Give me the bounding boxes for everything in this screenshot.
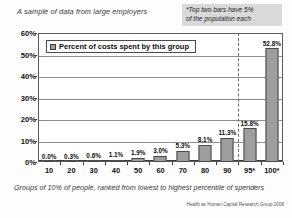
x-axis-tick-mark [83, 162, 84, 165]
bar-value-label: 5.3% [175, 142, 190, 149]
y-axis-tick-label: 20% [2, 115, 36, 124]
y-axis-tick-mark [34, 141, 37, 142]
x-axis-tick-label: 80 [201, 166, 209, 175]
x-axis-tick-mark [149, 162, 150, 165]
x-axis-tick-label: 90 [223, 166, 231, 175]
bar[interactable] [243, 128, 256, 162]
bar-group[interactable]: 52.8% [261, 33, 283, 162]
x-axis-tick-mark [261, 162, 262, 165]
legend-label: Percent of costs spent by this group [59, 42, 189, 51]
y-axis-tick-mark [34, 76, 37, 77]
bar[interactable] [199, 145, 212, 162]
x-axis-tick-label: 10 [45, 166, 53, 175]
bar-value-label: 0.3% [64, 153, 79, 160]
x-axis-tick-label: 50 [134, 166, 142, 175]
y-axis-tick-label: 0% [2, 158, 36, 167]
source-note: Health as Human Capital Research Group 2… [186, 202, 284, 207]
x-axis-tick-label: 40 [112, 166, 120, 175]
bar-group[interactable]: 8.1% [194, 33, 216, 162]
x-axis-tick-label: 30 [90, 166, 98, 175]
x-axis-tick-label: 100* [264, 166, 279, 175]
y-axis-tick-mark [34, 98, 37, 99]
x-axis-tick-mark [216, 162, 217, 165]
x-axis-tick-label: 60 [156, 166, 164, 175]
bar-value-label: 8.1% [198, 136, 213, 143]
x-axis-tick-mark [60, 162, 61, 165]
y-axis-tick-mark [34, 119, 37, 120]
bar-value-label: 0.0% [42, 153, 57, 160]
y-axis-tick-mark [34, 33, 37, 34]
x-axis-tick-mark [127, 162, 128, 165]
x-axis-tick-label: 95* [244, 166, 255, 175]
x-axis-caption: Groups of 10% of people, ranked from low… [14, 183, 264, 192]
bar-value-label: 15.8% [241, 120, 259, 127]
chart-legend: Percent of costs spent by this group [46, 40, 196, 53]
bar[interactable] [176, 151, 189, 162]
y-axis-tick-label: 60% [2, 29, 36, 38]
y-axis-tick-mark [34, 55, 37, 56]
bar-value-label: 3.0% [153, 147, 168, 154]
annotation-line-1: *Top two bars have 5% [186, 6, 279, 15]
y-axis-tick-mark [34, 162, 37, 163]
y-axis-tick-label: 50% [2, 50, 36, 59]
chart-figure: A sample of data from large employers *T… [0, 0, 292, 218]
x-axis: 10203040506070809095*100* [38, 162, 283, 176]
bar-group[interactable]: 11.3% [216, 33, 238, 162]
x-axis-tick-label: 20 [67, 166, 75, 175]
bar-value-label: 0.6% [86, 152, 101, 159]
x-axis-tick-mark [105, 162, 106, 165]
y-axis: 0%10%20%30%40%50%60% [0, 33, 36, 162]
x-axis-tick-label: 70 [179, 166, 187, 175]
x-axis-tick-mark [283, 162, 284, 165]
y-axis-tick-label: 30% [2, 93, 36, 102]
annotation-line-2: of the population each [186, 15, 279, 24]
bar[interactable] [265, 48, 278, 162]
bar-group[interactable]: 15.8% [238, 33, 260, 162]
bar-value-label: 11.3% [218, 129, 236, 136]
y-axis-tick-label: 10% [2, 136, 36, 145]
bar[interactable] [221, 138, 234, 162]
top-two-bars-annotation: *Top two bars have 5% of the population … [182, 4, 282, 26]
x-axis-tick-mark [194, 162, 195, 165]
legend-swatch-icon [50, 44, 56, 50]
bar-value-label: 1.1% [109, 151, 124, 158]
y-axis-tick-label: 40% [2, 72, 36, 81]
chart-title: A sample of data from large employers [17, 7, 147, 16]
bar-value-label: 1.9% [131, 149, 146, 156]
bar-value-label: 52.8% [263, 40, 281, 47]
x-axis-tick-mark [238, 162, 239, 165]
x-axis-tick-mark [172, 162, 173, 165]
